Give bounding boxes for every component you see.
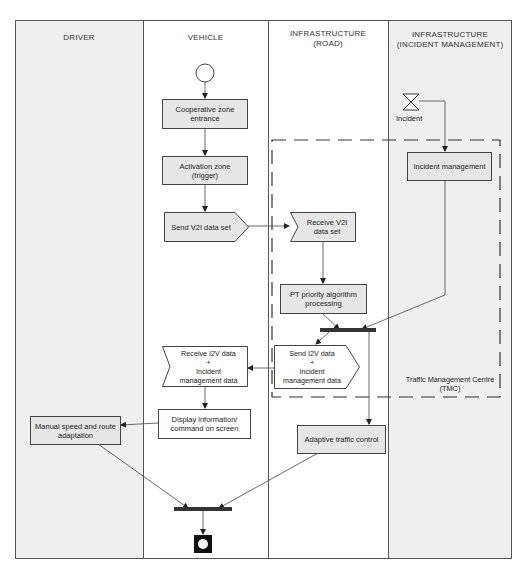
node-label: Manual speed and route adaptation	[35, 422, 116, 440]
send-v2i-label: Send V2I data set	[164, 212, 238, 242]
pt-priority-node[interactable]: PT priority algorithm processing	[280, 284, 367, 314]
node-label: Cooperative zone entrance	[176, 105, 235, 123]
incident-hourglass-icon	[402, 93, 420, 111]
display-information-node[interactable]: Display information/ command on screen	[158, 409, 251, 439]
manual-speed-route-node[interactable]: Manual speed and route adaptation	[30, 416, 121, 445]
lane-divider	[388, 20, 389, 559]
end-node-icon	[194, 535, 212, 553]
node-label: Incident management	[413, 162, 485, 171]
lane-divider	[268, 20, 269, 559]
send-i2v-label: Send I2V data + Incident management data	[274, 345, 350, 389]
tmc-label: Traffic Management Centre (TMC)	[400, 374, 500, 394]
lane-divider	[143, 20, 144, 559]
receive-v2i-label: Receive V2I data set	[298, 212, 356, 242]
cooperative-zone-entrance-node[interactable]: Cooperative zone entrance	[162, 99, 248, 129]
diagram-frame	[15, 20, 512, 559]
adaptive-traffic-control-node[interactable]: Adaptive traffic control	[297, 425, 386, 454]
receive-i2v-label: Receive I2V data + Incident management d…	[169, 346, 248, 387]
node-label: Display information/ command on screen	[171, 415, 239, 433]
node-label: Activation zone (trigger)	[180, 162, 231, 180]
activation-zone-node[interactable]: Activation zone (trigger)	[162, 156, 248, 185]
node-label: PT priority algorithm processing	[290, 290, 357, 308]
node-label: Adaptive traffic control	[304, 435, 378, 444]
incident-label: Incident	[396, 114, 422, 123]
incident-management-node[interactable]: Incident management	[407, 152, 492, 181]
